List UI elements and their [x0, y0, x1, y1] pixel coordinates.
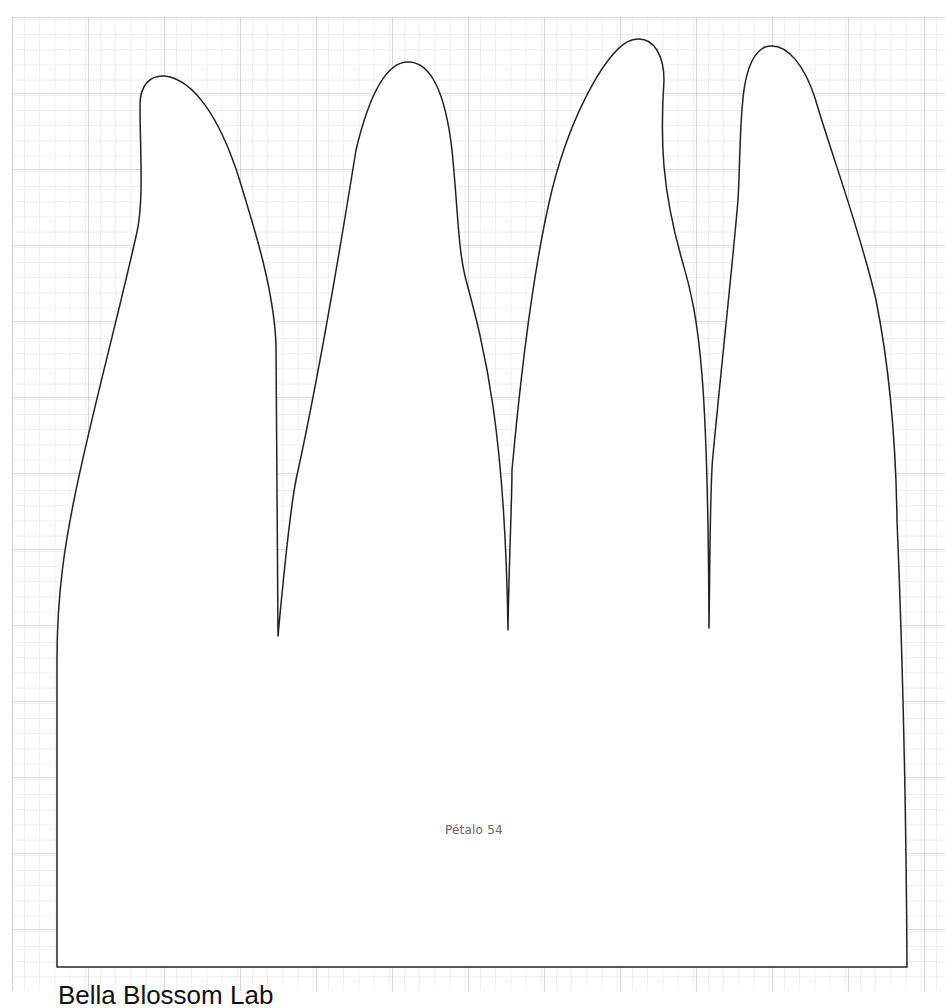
footer-brand-text: Bella Blossom Lab [58, 980, 273, 1008]
petal-label: Pétalo 54 [445, 823, 503, 837]
